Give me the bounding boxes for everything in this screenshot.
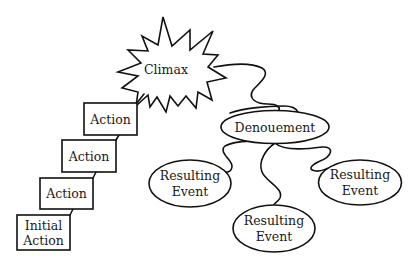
resulting-event-right-line1: Resulting: [330, 167, 390, 182]
action-box-3: Action: [40, 178, 93, 209]
resulting-event-bottom-line2: Event: [256, 229, 293, 244]
action-label-2: Action: [68, 149, 110, 164]
connector-denouement-event-bottom: [261, 143, 281, 205]
resulting-event-left-line1: Resulting: [160, 168, 220, 183]
resulting-event-left: Resulting Event: [149, 160, 231, 207]
denouement-node: Denouement: [221, 111, 329, 144]
resulting-event-bottom-line1: Resulting: [244, 213, 304, 228]
plot-structure-diagram: Climax Action Action Action Initial Acti…: [0, 0, 419, 267]
initial-action-box: Initial Action: [17, 215, 70, 250]
climax-label: Climax: [144, 62, 188, 77]
denouement-label: Denouement: [235, 120, 316, 135]
connector-initial-action3: [70, 209, 73, 215]
resulting-event-right: Resulting Event: [319, 160, 402, 205]
resulting-event-left-line2: Event: [172, 184, 209, 199]
initial-action-label-line2: Action: [22, 233, 64, 248]
resulting-event-bottom: Resulting Event: [233, 205, 315, 252]
action-label-1: Action: [89, 112, 131, 127]
connector-climax-denouement: [214, 64, 279, 110]
resulting-event-right-line2: Event: [342, 183, 379, 198]
action-box-1: Action: [84, 103, 137, 135]
connector-action3-action2: [93, 172, 96, 178]
action-box-2: Action: [62, 140, 116, 172]
connector-denouement-event-right: [275, 143, 331, 171]
initial-action-label-line1: Initial: [25, 218, 62, 233]
connector-denouement-event-left: [222, 141, 275, 172]
action-label-3: Action: [45, 186, 87, 201]
